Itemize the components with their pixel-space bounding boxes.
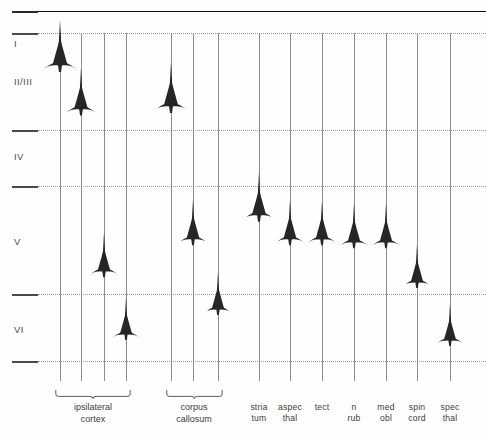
- group-brace-ipsilateral-cortex: [55, 390, 131, 399]
- laminar-tick-white-matter: [12, 361, 38, 363]
- neuron-icon: [64, 64, 104, 124]
- laminar-tick-pia: [12, 11, 38, 13]
- neuron-icon: [433, 295, 473, 355]
- axon-line-ipsi-3: [104, 33, 105, 381]
- laminar-label-VI: VI: [14, 324, 24, 335]
- axon-line-ipsi-1: [60, 33, 61, 381]
- laminar-label-IV: IV: [14, 151, 24, 162]
- laminar-border-III-IV: [38, 130, 486, 131]
- neuron-icon: [176, 194, 216, 254]
- brace-icon: [55, 390, 131, 399]
- neuron-icon: [400, 237, 440, 297]
- laminar-tick-I-II: [12, 33, 38, 35]
- axon-line-cc-3: [218, 33, 219, 381]
- group-label-corpus-callosum: corpus callosum: [154, 402, 234, 425]
- column-label-spec-thal: spec thal: [430, 402, 470, 423]
- laminar-distribution-figure: I II/III IV V VI stria tumaspec thaltect…: [0, 0, 486, 438]
- laminar-label-I: I: [14, 38, 17, 49]
- laminar-tick-V-VI: [12, 294, 38, 296]
- axon-line-spinal-cord: [417, 33, 418, 381]
- laminar-label-V: V: [14, 236, 21, 247]
- neuron-icon: [154, 61, 194, 121]
- laminar-tick-IV-V: [12, 186, 38, 188]
- neuron-icon: [109, 289, 149, 349]
- laminar-label-II-III: II/III: [14, 76, 32, 87]
- laminar-border-I-II: [38, 33, 486, 34]
- laminar-border-white-matter: [38, 361, 486, 362]
- group-label-ipsilateral-cortex: ipsilateral cortex: [53, 402, 133, 425]
- brace-icon: [166, 390, 223, 399]
- neuron-icon: [201, 264, 241, 324]
- laminar-tick-III-IV: [12, 130, 38, 132]
- neuron-icon: [87, 226, 127, 286]
- laminar-border-pia: [38, 11, 486, 12]
- group-brace-corpus-callosum: [166, 390, 223, 399]
